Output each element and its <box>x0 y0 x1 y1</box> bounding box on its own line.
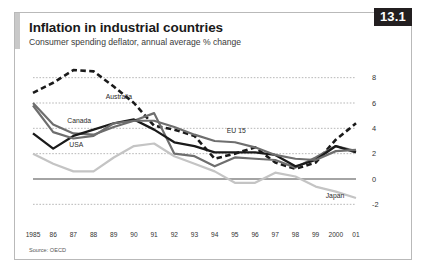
y-axis-tick-label: 6 <box>372 99 376 108</box>
y-axis-tick-label: 4 <box>372 124 376 133</box>
series-label-japan: Japan <box>326 192 345 200</box>
line-chart-svg: 86420-2 19858687888990919293949596979899… <box>15 13 413 261</box>
x-axis-tick-label: 94 <box>211 231 219 238</box>
x-axis-tick-label: 86 <box>50 231 58 238</box>
x-axis-tick-label: 91 <box>150 231 158 238</box>
series-labels: AustraliaCanadaUSAEU 15Japan <box>67 93 344 200</box>
source-note: Source: OECD <box>29 247 66 253</box>
figure-panel: 13.1 Inflation in industrial countries C… <box>14 12 412 260</box>
x-axis-tick-label: 1985 <box>26 231 41 238</box>
x-axis-tick-label: 89 <box>110 231 118 238</box>
x-axis-tick-label: 98 <box>292 231 300 238</box>
x-axis-tick-label: 2000 <box>328 231 343 238</box>
x-axis-tick-label: 90 <box>130 231 138 238</box>
series-label-australia: Australia <box>106 93 133 100</box>
x-axis-tick-label: 87 <box>70 231 78 238</box>
series-line-japan <box>33 144 356 198</box>
x-axis-tick-label: 93 <box>191 231 199 238</box>
chart-plot-area: 86420-2 19858687888990919293949596979899… <box>15 13 413 261</box>
y-axis-labels: 86420-2 <box>372 73 379 209</box>
x-axis-tick-label: 96 <box>251 231 259 238</box>
x-axis-labels: 19858687888990919293949596979899200001 <box>26 231 360 238</box>
series-label-usa: USA <box>69 141 83 148</box>
x-axis-tick-label: 99 <box>312 231 320 238</box>
x-axis-tick-label: 95 <box>231 231 239 238</box>
x-axis-tick-label: 97 <box>272 231 280 238</box>
y-axis-tick-label: -2 <box>372 200 379 209</box>
series-label-canada: Canada <box>67 117 91 124</box>
x-axis-tick-label: 88 <box>90 231 98 238</box>
x-axis-tick-label: 92 <box>171 231 179 238</box>
y-axis-tick-label: 8 <box>372 73 376 82</box>
y-axis-tick-label: 0 <box>372 175 376 184</box>
x-axis-tick-label: 01 <box>352 231 360 238</box>
series-label-eu-15: EU 15 <box>227 127 246 134</box>
y-axis-tick-label: 2 <box>372 149 376 158</box>
